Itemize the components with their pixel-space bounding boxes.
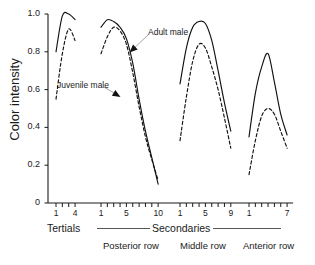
group-label-posterior-row: Posterior row <box>103 240 159 251</box>
bracket-label-secondaries: Secondaries <box>152 222 210 234</box>
group-label-middle-row: Middle row <box>180 240 226 251</box>
bracket-label-tertials: Tertials <box>47 222 80 234</box>
curve-adult-male-tertials <box>56 12 75 51</box>
curve-adult-male-anterior-row <box>249 53 287 137</box>
arrowhead-juvenile-male <box>112 90 121 97</box>
group-label-anterior-row: Anterior row <box>243 240 294 251</box>
data-curves <box>56 12 287 184</box>
annotation-adult-male: Adult male <box>148 27 188 37</box>
curve-adult-male-posterior-row <box>101 19 158 184</box>
chart-figure: Color intensity 00.20.40.60.81.0 1415101… <box>0 0 315 265</box>
annotation-juvenile-male: Juvenile male <box>57 80 109 90</box>
axes <box>45 14 294 207</box>
